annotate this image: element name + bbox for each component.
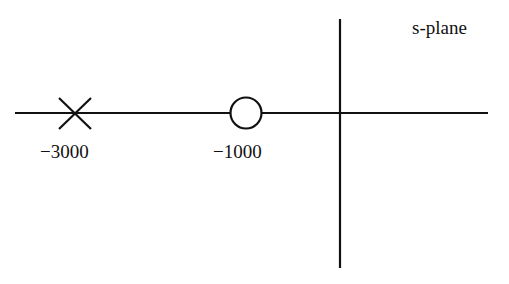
zero-circle-icon [231, 98, 262, 129]
pole-label: −3000 [40, 142, 89, 161]
plane-title: s-plane [412, 18, 467, 37]
zero-label: −1000 [213, 142, 262, 161]
